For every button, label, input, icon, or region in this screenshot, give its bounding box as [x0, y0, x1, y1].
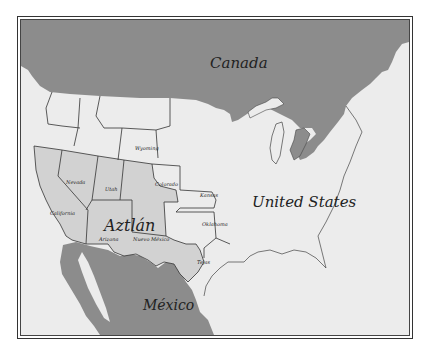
map-frame-inner	[20, 19, 410, 336]
